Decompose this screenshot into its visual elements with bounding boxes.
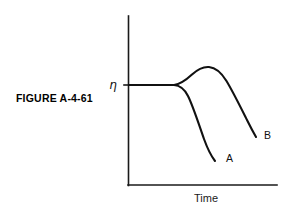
figure-container: FIGURE A-4-61 η A B Time — [0, 0, 289, 211]
curve-a-path — [129, 85, 215, 161]
y-axis-eta-label: η — [109, 78, 117, 92]
chart-plot: η A B Time — [0, 0, 289, 211]
curve-a-label: A — [226, 152, 233, 164]
curve-b-label: B — [264, 129, 271, 141]
x-axis-title: Time — [194, 192, 218, 204]
curve-b-path — [129, 67, 256, 137]
